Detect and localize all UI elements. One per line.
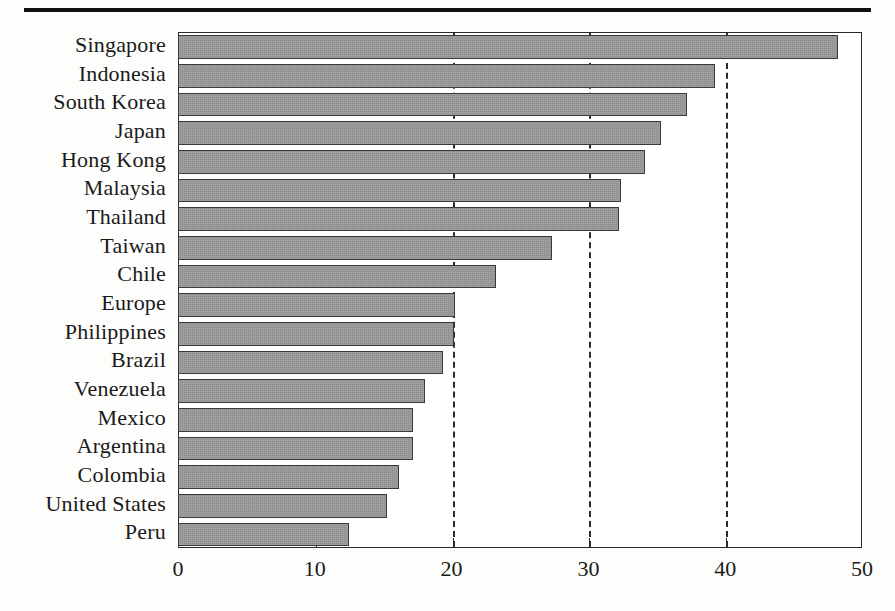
category-label: Chile — [117, 260, 166, 289]
category-label: Singapore — [75, 31, 166, 60]
bars-group — [179, 33, 861, 547]
bar[interactable] — [178, 523, 349, 547]
bar-row — [179, 377, 863, 406]
bar-row — [179, 234, 863, 263]
bar-row — [179, 262, 863, 291]
x-axis-tick-labels: 01020304050 — [0, 556, 895, 596]
bar[interactable] — [178, 265, 496, 289]
bar-row — [179, 119, 863, 148]
bar[interactable] — [178, 494, 387, 518]
top-horizontal-rule — [24, 8, 871, 12]
category-label: Philippines — [65, 318, 166, 347]
bar[interactable] — [178, 322, 454, 346]
bar-row — [179, 90, 863, 119]
bar[interactable] — [178, 408, 413, 432]
x-tick-label: 50 — [851, 556, 873, 582]
chart-figure: SingaporeIndonesiaSouth KoreaJapanHong K… — [0, 0, 895, 611]
plot-area — [178, 32, 862, 548]
category-label: Mexico — [98, 404, 166, 433]
bar-row — [179, 148, 863, 177]
bar-row — [179, 463, 863, 492]
bar-row — [179, 33, 863, 62]
bar[interactable] — [178, 150, 645, 174]
category-label: Japan — [115, 117, 166, 146]
bar[interactable] — [178, 35, 838, 59]
bar[interactable] — [178, 64, 715, 88]
bar[interactable] — [178, 437, 413, 461]
category-label: Hong Kong — [61, 146, 166, 175]
bar-row — [179, 348, 863, 377]
x-tick-label: 40 — [714, 556, 736, 582]
bar[interactable] — [178, 121, 661, 145]
category-label: United States — [45, 490, 166, 519]
bar[interactable] — [178, 351, 443, 375]
category-axis-labels: SingaporeIndonesiaSouth KoreaJapanHong K… — [0, 32, 172, 548]
x-tick-label: 30 — [577, 556, 599, 582]
category-label: Europe — [101, 289, 166, 318]
bar[interactable] — [178, 293, 455, 317]
category-label: South Korea — [53, 88, 166, 117]
x-tick-label: 20 — [441, 556, 463, 582]
category-label: Peru — [125, 518, 166, 547]
bar-row — [179, 62, 863, 91]
bar[interactable] — [178, 93, 687, 117]
x-tick-label: 0 — [173, 556, 184, 582]
bar-row — [179, 406, 863, 435]
category-label: Taiwan — [100, 232, 166, 261]
category-label: Thailand — [86, 203, 166, 232]
bar-row — [179, 176, 863, 205]
category-label: Colombia — [78, 461, 166, 490]
bar-row — [179, 520, 863, 549]
bar-row — [179, 291, 863, 320]
bar-row — [179, 492, 863, 521]
bar[interactable] — [178, 236, 552, 260]
bar-row — [179, 434, 863, 463]
bar[interactable] — [178, 207, 619, 231]
x-tick-label: 10 — [304, 556, 326, 582]
bar[interactable] — [178, 465, 399, 489]
category-label: Indonesia — [79, 60, 166, 89]
category-label: Malaysia — [84, 174, 166, 203]
category-label: Venezuela — [74, 375, 166, 404]
bar[interactable] — [178, 379, 425, 403]
bar-row — [179, 320, 863, 349]
category-label: Brazil — [111, 346, 166, 375]
bar-row — [179, 205, 863, 234]
bar[interactable] — [178, 179, 621, 203]
category-label: Argentina — [77, 432, 166, 461]
